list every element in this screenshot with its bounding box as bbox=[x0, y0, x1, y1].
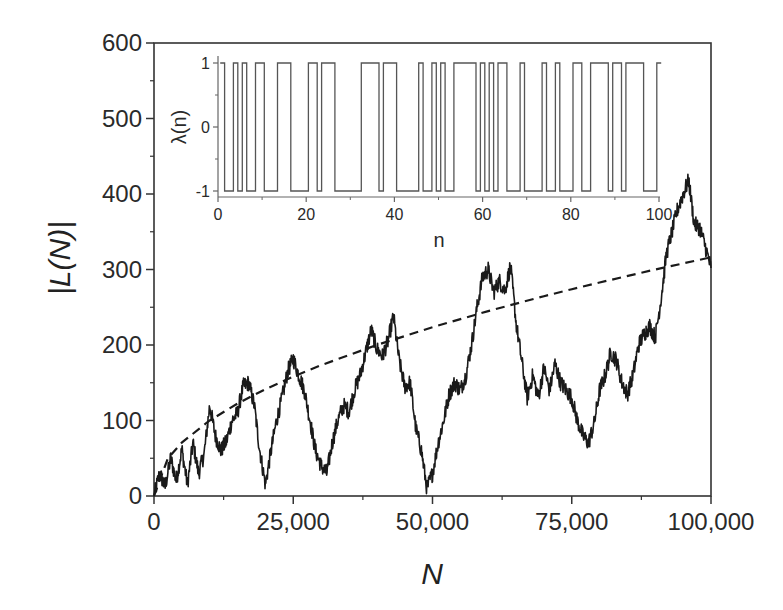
inset-x-axis-title: n bbox=[433, 229, 444, 251]
inset-y-axis-title: λ(n) bbox=[168, 110, 190, 144]
inset-x-tick-label: 20 bbox=[297, 206, 315, 223]
main-y-axis-title: |L(N)| bbox=[43, 221, 76, 295]
y-tick-label: 400 bbox=[102, 180, 142, 207]
inset-x-tick-label: 80 bbox=[562, 206, 580, 223]
inset-chart: -101020406080100 n λ(n) bbox=[168, 55, 672, 251]
y-tick-label: 0 bbox=[129, 482, 142, 509]
y-tick-label: 100 bbox=[102, 407, 142, 434]
y-tick-label: 500 bbox=[102, 105, 142, 132]
main-x-axis-title: N bbox=[421, 557, 443, 590]
inset-axes: -101020406080100 bbox=[196, 55, 673, 223]
inset-y-tick-label: -1 bbox=[196, 183, 210, 200]
sqrt-n-dashed-curve bbox=[154, 257, 711, 496]
inset-x-tick-label: 40 bbox=[386, 206, 404, 223]
x-tick-label: 75,000 bbox=[535, 508, 608, 535]
y-tick-label: 300 bbox=[102, 256, 142, 283]
inset-y-tick-label: 1 bbox=[201, 55, 210, 72]
main-plot-area bbox=[154, 174, 711, 496]
main-x-axis: 025,00050,00075,000100,000 bbox=[147, 496, 754, 535]
liouville-sum-curve bbox=[154, 174, 711, 494]
inset-y-tick-label: 0 bbox=[201, 119, 210, 136]
main-y-axis: 0100200300400500600 bbox=[102, 29, 154, 509]
y-tick-label: 200 bbox=[102, 331, 142, 358]
inset-x-tick-label: 100 bbox=[646, 206, 673, 223]
inset-x-tick-label: 60 bbox=[474, 206, 492, 223]
y-tick-label: 600 bbox=[102, 29, 142, 56]
x-tick-label: 100,000 bbox=[668, 508, 755, 535]
x-tick-label: 0 bbox=[147, 508, 160, 535]
x-tick-label: 25,000 bbox=[257, 508, 330, 535]
liouville-chart: 0100200300400500600 025,00050,00075,0001… bbox=[0, 0, 783, 610]
inset-x-tick-label: 0 bbox=[214, 206, 223, 223]
x-tick-label: 50,000 bbox=[396, 508, 469, 535]
inset-plot-area bbox=[220, 63, 661, 191]
liouville-lambda-step-curve bbox=[220, 63, 661, 191]
